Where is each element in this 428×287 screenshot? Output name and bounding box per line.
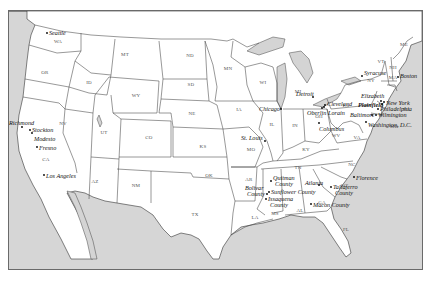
city-label: TaliaferroCounty bbox=[333, 183, 358, 196]
city-marker: Wilmington bbox=[375, 111, 406, 118]
state-label-ms: MS bbox=[271, 211, 279, 216]
city-marker: Detroit bbox=[295, 90, 314, 98]
state-label-wa: WA bbox=[54, 39, 62, 44]
state-label-al: AL bbox=[296, 208, 303, 213]
city-dot-icon bbox=[375, 114, 377, 116]
city-dot-icon bbox=[383, 101, 385, 103]
city-label: Boston bbox=[400, 72, 417, 79]
city-marker: Boston bbox=[397, 72, 417, 79]
city-dot-icon bbox=[21, 126, 23, 128]
city-label: Seattle bbox=[49, 29, 66, 36]
city-dot-icon bbox=[270, 180, 272, 182]
city-marker: Washington, D.C. bbox=[365, 121, 412, 128]
city-label: Oberlin bbox=[307, 109, 326, 116]
state-label-ky: KY bbox=[302, 147, 310, 152]
city-dot-icon bbox=[353, 176, 355, 178]
city-dot-icon bbox=[46, 32, 48, 34]
state-label-wv: WV bbox=[332, 133, 341, 138]
city-marker: Los Angeles bbox=[43, 172, 76, 179]
city-marker: Sunflower County bbox=[268, 188, 316, 195]
city-marker: Syracuse bbox=[361, 69, 386, 77]
city-dot-icon bbox=[265, 198, 267, 200]
state-label-va: VA bbox=[354, 135, 361, 140]
city-dot-icon bbox=[280, 108, 282, 110]
city-dot-icon bbox=[310, 203, 312, 205]
state-label-ne: NE bbox=[188, 111, 195, 116]
city-marker: Macon County bbox=[310, 201, 350, 208]
state-label-wy: WY bbox=[132, 93, 141, 98]
city-marker: Atlanta bbox=[304, 179, 323, 186]
city-dot-icon bbox=[318, 122, 320, 124]
state-label-ia: IA bbox=[236, 107, 242, 112]
state-label-nd: ND bbox=[186, 53, 194, 58]
state-label-ok: OK bbox=[205, 173, 213, 178]
state-label-nc: NC bbox=[348, 162, 356, 167]
city-label: Stockton bbox=[32, 126, 53, 133]
state-label-nv: NV bbox=[59, 121, 67, 126]
city-marker: Florence bbox=[353, 174, 378, 181]
state-label-sd: SD bbox=[188, 82, 195, 87]
city-dot-icon bbox=[361, 75, 363, 77]
city-marker: TaliaferroCounty bbox=[330, 183, 358, 196]
city-marker: Fresno bbox=[36, 144, 56, 151]
state-label-la: LA bbox=[251, 215, 258, 220]
city-dot-icon bbox=[268, 191, 270, 193]
city-dot-icon bbox=[330, 186, 332, 188]
city-label: Wilmington bbox=[378, 111, 407, 118]
state-label-ut: UT bbox=[100, 130, 107, 135]
city-label: Fresno bbox=[38, 144, 56, 151]
city-label: Chicago bbox=[259, 105, 280, 112]
city-label: Columbus bbox=[319, 125, 345, 132]
city-label: Florence bbox=[355, 174, 378, 181]
state-label-nm: NM bbox=[132, 183, 141, 188]
city-marker: Oberlin bbox=[307, 107, 326, 116]
state-label-tx: TX bbox=[191, 212, 198, 217]
city-dot-icon bbox=[324, 104, 326, 106]
city-label: Detroit bbox=[295, 90, 314, 97]
state-label-mo: MO bbox=[247, 147, 256, 152]
city-dot-icon bbox=[397, 76, 399, 78]
city-label: QuitmanCounty bbox=[273, 174, 295, 187]
state-label-vt: VT bbox=[377, 59, 384, 64]
city-label: Sunflower County bbox=[271, 188, 316, 195]
city-label: Modesto bbox=[33, 135, 55, 142]
city-label: Macon County bbox=[312, 201, 350, 208]
city-label: Cleveland bbox=[327, 100, 353, 107]
city-dot-icon bbox=[31, 132, 33, 134]
city-label: BolivarCounty bbox=[245, 184, 265, 197]
us-map: WAORCANVIDMTWYUTAZCONMNDSDNEKSOKTXMNIAMO… bbox=[9, 11, 422, 269]
city-label: Syracuse bbox=[364, 69, 387, 76]
city-label: St. Louis bbox=[241, 134, 263, 141]
state-label-tn: TN bbox=[294, 165, 301, 170]
state-label-me: ME bbox=[400, 42, 408, 47]
city-marker: Chicago bbox=[259, 105, 282, 112]
state-label-nh: NH bbox=[389, 65, 397, 70]
state-label-mt: MT bbox=[121, 52, 129, 57]
state-label-il: IL bbox=[269, 122, 274, 127]
state-label-ca: CA bbox=[42, 157, 50, 162]
city-label: Lorain bbox=[327, 109, 345, 116]
city-dot-icon bbox=[264, 140, 266, 142]
state-label-co: CO bbox=[145, 135, 153, 140]
state-label-id: ID bbox=[86, 80, 92, 85]
state-label-wi: WI bbox=[260, 80, 267, 85]
state-label-ks: KS bbox=[200, 144, 207, 149]
city-label: Baltimore bbox=[350, 111, 375, 118]
city-dot-icon bbox=[29, 129, 31, 131]
city-label: Richmond bbox=[9, 119, 35, 126]
state-label-fl: FL bbox=[343, 227, 349, 232]
city-dot-icon bbox=[377, 108, 379, 110]
city-marker: Stockton bbox=[29, 126, 53, 133]
state-label-az: AZ bbox=[91, 179, 98, 184]
city-dot-icon bbox=[323, 106, 325, 108]
state-label-ny: NY bbox=[367, 78, 375, 83]
state-label-ar: AR bbox=[245, 177, 253, 182]
state-label-in: IN bbox=[292, 123, 298, 128]
city-dot-icon bbox=[43, 174, 45, 176]
city-marker: Seattle bbox=[46, 29, 66, 36]
state-label-or: OR bbox=[41, 70, 49, 75]
map-frame: WAORCANVIDMTWYUTAZCONMNDSDNEKSOKTXMNIAMO… bbox=[8, 10, 423, 270]
city-label: Washington, D.C. bbox=[368, 121, 412, 128]
city-label: Elizabeth bbox=[360, 92, 384, 99]
city-marker: St. Louis bbox=[241, 134, 266, 142]
